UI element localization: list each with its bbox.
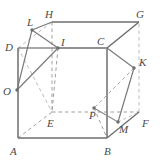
edge-D-H-hidden <box>18 22 52 48</box>
segment-C-K <box>107 48 134 68</box>
segment-I-E-hidden <box>52 48 58 112</box>
point-I <box>56 46 59 49</box>
edge-D-E-hidden <box>18 48 52 112</box>
vertex-label-C: C <box>97 36 104 47</box>
vertex-label-E: E <box>47 118 54 129</box>
segment-L-H <box>32 22 52 30</box>
edge-C-G <box>107 22 139 48</box>
point-K <box>132 66 135 69</box>
segment-P-M <box>94 108 118 122</box>
vertex-label-H: H <box>45 9 53 20</box>
vertex-label-L: L <box>27 17 33 28</box>
vertex-label-D: D <box>5 42 13 53</box>
vertex-label-M: M <box>119 124 128 135</box>
point-L <box>30 28 33 31</box>
vertex-label-F: F <box>142 118 149 129</box>
vertex-label-A: A <box>10 146 17 157</box>
hidden-edges-group <box>18 22 139 138</box>
construction-lines-group <box>17 22 139 138</box>
solid-edges-group <box>18 22 139 138</box>
segment-K-M <box>118 68 134 122</box>
vertex-label-K: K <box>139 57 146 68</box>
vertex-label-P: P <box>89 110 96 121</box>
cube-diagram: A B C D E F G H I K L M O P <box>0 0 161 160</box>
vertex-label-I: I <box>61 37 65 48</box>
segment-L-O <box>17 30 32 90</box>
vertex-label-G: G <box>136 9 144 20</box>
point-O <box>15 88 18 91</box>
segment-L-I <box>32 30 58 48</box>
points-group <box>15 28 135 123</box>
vertex-label-O: O <box>3 86 11 97</box>
cube-svg <box>0 0 161 160</box>
vertex-label-B: B <box>104 146 111 157</box>
